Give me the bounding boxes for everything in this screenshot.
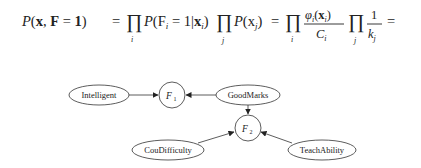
node-sub-f1: 1	[174, 96, 177, 102]
node-sub-f2: 2	[250, 129, 253, 135]
node-teachability: TeachAbility	[288, 140, 356, 160]
node-f2: F 2	[235, 115, 261, 141]
node-intelligent: Intelligent	[69, 85, 129, 105]
node-label-goodmarks: GoodMarks	[228, 90, 269, 100]
node-label-intelligent: Intelligent	[82, 90, 118, 100]
node-label-coudifficulty: CouDifficulty	[144, 145, 192, 155]
node-goodmarks: GoodMarks	[216, 85, 280, 105]
node-coudifficulty: CouDifficulty	[132, 140, 204, 160]
node-label-f1: F	[165, 91, 172, 101]
edge-coudifficulty-f2	[198, 132, 234, 143]
edge-teachability-f2	[261, 132, 292, 143]
factor-graph: Intelligent F 1 GoodMarks F 2 CouDifficu…	[0, 0, 421, 168]
node-f1: F 1	[159, 82, 185, 108]
node-label-teachability: TeachAbility	[300, 145, 345, 155]
node-label-f2: F	[241, 124, 248, 134]
